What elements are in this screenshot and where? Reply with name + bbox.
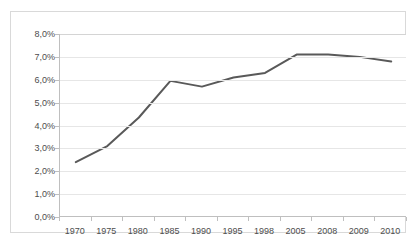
x-axis-tick (311, 217, 312, 221)
gridline (60, 126, 406, 127)
chart-figure: 8,0%7,0%6,0%5,0%4,0%3,0%2,0%1,0%0,0% 197… (0, 0, 417, 246)
x-axis-tick-label: 2008 (311, 222, 343, 240)
x-axis-tick-label: 2005 (280, 222, 312, 240)
x-axis-tick (374, 217, 375, 221)
gridline (60, 34, 406, 35)
chart-outer-frame: 8,0%7,0%6,0%5,0%4,0%3,0%2,0%1,0%0,0% 197… (10, 11, 406, 233)
x-axis-tick (217, 217, 218, 221)
x-axis-tick-label: 1998 (248, 222, 280, 240)
y-axis-tick-marks (11, 34, 59, 217)
x-axis-tick-label: 1970 (59, 222, 91, 240)
gridline (60, 171, 406, 172)
x-axis-tick (280, 217, 281, 221)
plot-area (59, 34, 406, 217)
gridline (60, 80, 406, 81)
gridline (60, 103, 406, 104)
x-axis-tick (59, 217, 60, 221)
x-axis-tick (91, 217, 92, 221)
x-axis-tick-marks (59, 217, 406, 221)
x-axis-tick (154, 217, 155, 221)
x-axis-tick-label: 1980 (122, 222, 154, 240)
gridline (60, 148, 406, 149)
x-axis-tick-label: 1990 (185, 222, 217, 240)
x-axis-tick (248, 217, 249, 221)
x-axis-tick-label: 1985 (154, 222, 186, 240)
line-series-path (76, 55, 391, 163)
x-axis-tick (343, 217, 344, 221)
x-axis-tick (406, 217, 407, 221)
x-axis-tick-label: 1995 (217, 222, 249, 240)
x-axis-tick (185, 217, 186, 221)
x-axis-tick-labels: 1970197519801985199019951998200520082009… (59, 222, 406, 240)
gridline (60, 194, 406, 195)
x-axis-tick-label: 2009 (343, 222, 375, 240)
x-axis-tick-label: 2010 (374, 222, 406, 240)
gridline (60, 57, 406, 58)
x-axis-tick-label: 1975 (91, 222, 123, 240)
x-axis-tick (122, 217, 123, 221)
